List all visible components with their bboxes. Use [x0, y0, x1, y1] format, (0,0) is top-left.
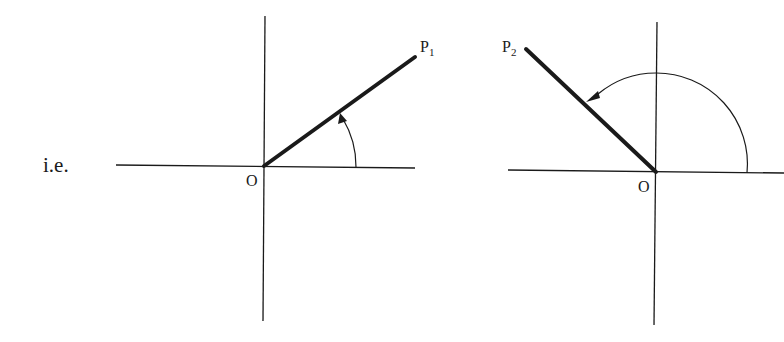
- angle-diagrams: i.e. O P1 O P2: [0, 0, 784, 342]
- right-angle-arc: [598, 73, 747, 173]
- right-diagram: O P2: [502, 22, 784, 325]
- left-diagram: O P1: [116, 16, 434, 321]
- p2-label: P2: [502, 38, 516, 58]
- left-origin-label: O: [246, 172, 258, 189]
- right-arrowhead-icon: [586, 91, 600, 102]
- line-op1: [264, 57, 415, 166]
- p1-label: P1: [420, 38, 434, 58]
- left-arrowhead-icon: [338, 113, 347, 124]
- right-x-axis: [508, 170, 784, 173]
- left-y-axis: [263, 16, 265, 321]
- left-angle-arc: [343, 119, 356, 167]
- right-origin-label: O: [638, 178, 650, 195]
- line-op2: [526, 49, 656, 172]
- caption-text: i.e.: [43, 153, 69, 177]
